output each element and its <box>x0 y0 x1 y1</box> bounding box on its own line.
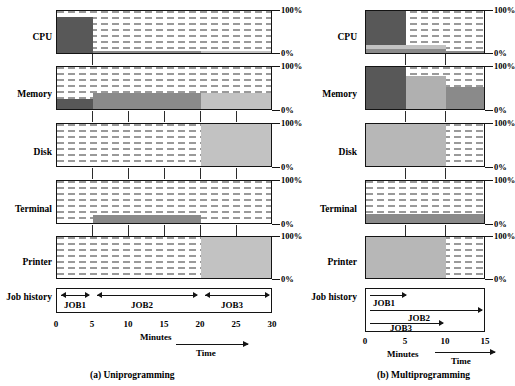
x-tick-10: 10 <box>118 320 138 329</box>
segment-job2 <box>93 93 201 109</box>
axis-label-bottom-memory: 0% <box>494 106 507 115</box>
segment-job3 <box>366 124 446 166</box>
connector-tick <box>200 225 201 236</box>
axis-label-top-disk: 100% <box>494 119 515 128</box>
connector-tick <box>92 111 93 122</box>
row-label-cpu: CPU <box>0 33 52 43</box>
axis-tick-top-printer <box>272 236 280 237</box>
connector-tick <box>236 168 237 179</box>
x-tick-30: 30 <box>262 320 282 329</box>
axis-tick-bottom-disk <box>272 167 280 168</box>
connector-tick <box>445 54 446 65</box>
connector-tick <box>405 225 406 236</box>
axis-tick-bottom-printer <box>485 279 493 280</box>
bar-terminal-uniprogramming <box>56 180 272 224</box>
row-label-printer: Printer <box>295 258 357 268</box>
bar-disk-multiprogramming <box>365 123 485 167</box>
row-label-cpu: CPU <box>295 33 357 43</box>
row-label-memory: Memory <box>295 90 357 100</box>
connector-tick <box>445 111 446 122</box>
axis-tick-top-disk <box>485 123 493 124</box>
bar-terminal-multiprogramming <box>365 180 485 224</box>
bar-cpu-multiprogramming <box>365 10 485 54</box>
job-span-arrow-job1 <box>61 295 89 296</box>
axis-tick-top-printer <box>485 236 493 237</box>
connector-tick <box>405 168 406 179</box>
axis-tick-top-terminal <box>272 180 280 181</box>
bar-printer-uniprogramming <box>56 236 272 279</box>
axis-label-top-printer: 100% <box>494 232 515 241</box>
segment-job3 <box>201 93 272 109</box>
connector-tick <box>445 168 446 179</box>
x-tick-0: 0 <box>46 320 66 329</box>
axis-label-bottom-terminal: 0% <box>281 220 294 229</box>
axis-label-top-terminal: 100% <box>494 176 515 185</box>
x-tick-0: 0 <box>355 337 375 346</box>
axis-tick-top-memory <box>272 66 280 67</box>
bar-disk-uniprogramming <box>56 123 272 167</box>
axis-label-bottom-cpu: 0% <box>494 49 507 58</box>
x-tick-10: 10 <box>435 337 455 346</box>
connector-tick <box>405 54 406 65</box>
axis-tick-top-memory <box>485 66 493 67</box>
x-tick-15: 15 <box>154 320 174 329</box>
panel-caption-uniprogramming: (a) Uniprogramming <box>90 371 175 381</box>
segment-job3 <box>201 237 272 278</box>
axis-label-bottom-terminal: 0% <box>494 220 507 229</box>
axis-tick-bottom-memory <box>272 110 280 111</box>
axis-label-bottom-disk: 0% <box>494 163 507 172</box>
axis-label-bottom-printer: 0% <box>494 275 507 284</box>
segment-job3 <box>201 124 272 166</box>
job-span-arrow-job3 <box>205 295 269 296</box>
x-tick-25: 25 <box>226 320 246 329</box>
segment-job2-tail <box>446 51 485 53</box>
connector-tick <box>445 225 446 236</box>
segment-job2 <box>93 215 201 223</box>
x-tick-5: 5 <box>395 337 415 346</box>
bar-printer-multiprogramming <box>365 236 485 279</box>
row-label-disk: Disk <box>295 148 357 158</box>
axis-tick-bottom-terminal <box>272 224 280 225</box>
axis-tick-bottom-memory <box>485 110 493 111</box>
job-history-box-uniprogramming: JOB1 JOB2 JOB3 <box>56 288 272 313</box>
row-label-disk: Disk <box>0 148 52 158</box>
job-history-box-multiprogramming: JOB1 JOB2 JOB3 <box>365 288 485 332</box>
axis-tick-bottom-disk <box>485 167 493 168</box>
time-axis-title: Time <box>451 357 471 366</box>
bar-cpu-uniprogramming <box>56 10 272 54</box>
panel-caption-multiprogramming: (b) Multiprogramming <box>377 371 470 381</box>
segment-job2 <box>93 51 201 53</box>
connector-tick <box>200 111 201 122</box>
segment-job2 <box>366 214 485 223</box>
axis-tick-top-terminal <box>485 180 493 181</box>
job-label-job2: JOB2 <box>131 301 153 310</box>
connector-tick <box>236 225 237 236</box>
time-direction-arrow <box>176 344 248 345</box>
segment-job3 <box>201 51 272 53</box>
axis-label-bottom-memory: 0% <box>281 106 294 115</box>
axis-tick-bottom-printer <box>272 279 280 280</box>
segment-job1 <box>57 99 93 109</box>
row-label-memory: Memory <box>0 90 52 100</box>
x-tick-20: 20 <box>190 320 210 329</box>
connector-tick <box>128 225 129 236</box>
x-tick-5: 5 <box>82 320 102 329</box>
axis-tick-bottom-terminal <box>485 224 493 225</box>
bar-memory-uniprogramming <box>56 66 272 110</box>
axis-tick-top-disk <box>272 123 280 124</box>
job-label-job1: JOB1 <box>373 299 395 308</box>
segment-job3 <box>366 237 446 278</box>
x-tick-15: 15 <box>475 337 495 346</box>
connector-tick <box>128 111 129 122</box>
axis-tick-top-cpu <box>272 10 280 11</box>
job-label-job3: JOB3 <box>221 301 243 310</box>
row-label-terminal: Terminal <box>0 205 52 215</box>
segment-job2 <box>366 49 446 53</box>
job-span-arrow-job2 <box>370 310 482 311</box>
axis-tick-top-cpu <box>485 10 493 11</box>
x-axis-title: Minutes <box>387 350 419 359</box>
connector-tick <box>128 168 129 179</box>
connector-tick <box>164 168 165 179</box>
axis-tick-bottom-cpu <box>272 53 280 54</box>
connector-tick <box>164 111 165 122</box>
